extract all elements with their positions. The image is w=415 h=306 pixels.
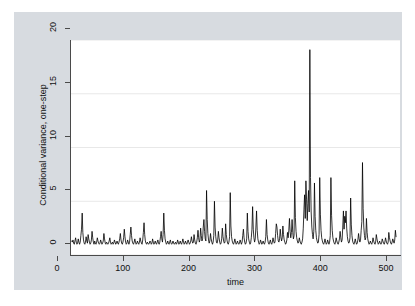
y-tick-label: 10 xyxy=(48,124,58,146)
x-tick-label: 400 xyxy=(305,263,335,273)
x-tick-label: 0 xyxy=(42,263,72,273)
x-tick-mark xyxy=(320,256,321,261)
x-tick-label: 200 xyxy=(174,263,204,273)
x-tick-mark xyxy=(189,256,190,261)
x-tick-mark xyxy=(123,256,124,261)
x-tick-mark xyxy=(57,256,58,261)
y-tick-label: 5 xyxy=(48,177,58,199)
x-tick-label: 100 xyxy=(108,263,138,273)
y-tick-label: 15 xyxy=(48,70,58,92)
x-tick-mark xyxy=(386,256,387,261)
x-tick-label: 500 xyxy=(371,263,401,273)
y-tick-label: 0 xyxy=(48,231,58,253)
chart-screenshot: 05101520 0100200300400500 Conditional va… xyxy=(0,0,415,306)
gridlines xyxy=(71,40,400,255)
x-tick-label: 300 xyxy=(239,263,269,273)
x-axis-title: time xyxy=(71,277,400,287)
y-axis-title: Conditional variance, one-step xyxy=(38,65,48,225)
graph-region: 05101520 0100200300400500 Conditional va… xyxy=(14,12,402,290)
plot-area xyxy=(71,40,400,255)
x-tick-mark xyxy=(254,256,255,261)
y-tick-mark xyxy=(65,82,70,83)
y-tick-label: 20 xyxy=(48,16,58,38)
x-axis-line xyxy=(70,255,401,256)
y-axis-line xyxy=(70,40,71,256)
y-tick-mark xyxy=(65,243,70,244)
y-tick-mark xyxy=(65,189,70,190)
plot-svg xyxy=(71,40,400,255)
y-tick-mark xyxy=(65,136,70,137)
y-tick-mark xyxy=(65,28,70,29)
data-series-line xyxy=(72,50,396,245)
